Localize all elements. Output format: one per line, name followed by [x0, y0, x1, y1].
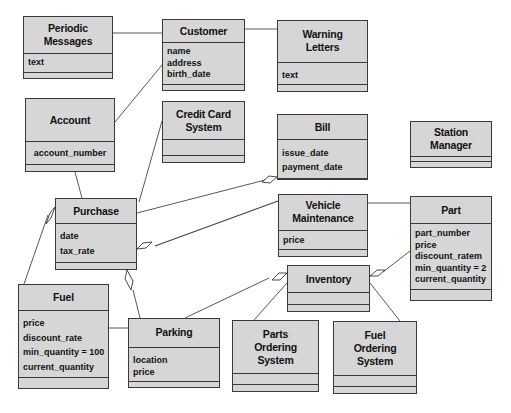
class-name: Purchase	[56, 199, 136, 224]
attribute: issue_date	[282, 146, 363, 160]
class-name: Fuel Ordering System	[334, 322, 416, 376]
class-name: Bill	[278, 115, 367, 140]
attribute: price	[283, 235, 363, 247]
class-attributes	[163, 140, 244, 156]
class-name: Customer	[163, 20, 244, 43]
class-name: Fuel	[19, 285, 108, 311]
class-fuel: Fuel price discount_rate min_quantity = …	[18, 284, 109, 389]
class-operations	[288, 305, 369, 311]
class-operations	[233, 385, 318, 391]
attribute: text	[28, 57, 108, 69]
attribute: min_quantity = 2	[415, 263, 487, 275]
attribute: min_quantity = 100	[23, 345, 104, 360]
class-attributes: location price	[129, 348, 219, 382]
class-attributes: price discount_rate min_quantity = 100 c…	[19, 311, 108, 378]
attribute: price	[23, 316, 104, 331]
class-operations	[19, 378, 108, 388]
class-operations	[26, 165, 114, 171]
attribute: birth_date	[167, 69, 240, 81]
class-credit-card-system: Credit Card System	[162, 101, 245, 163]
attribute: payment_date	[282, 160, 363, 174]
class-account: Account account_number	[25, 98, 115, 172]
class-name: Vehicle Maintenance	[279, 195, 367, 231]
attribute: text	[282, 70, 363, 82]
class-name: Credit Card System	[163, 102, 244, 140]
attribute: tax_rate	[60, 244, 132, 259]
class-operations	[56, 263, 136, 269]
class-parking: Parking location price	[128, 318, 220, 388]
class-name: Warning Letters	[278, 21, 367, 63]
class-attributes: account_number	[26, 142, 114, 165]
class-name: Account	[26, 99, 114, 142]
class-attributes	[288, 293, 369, 305]
attribute: address	[167, 58, 240, 70]
attribute: current_quantity	[23, 360, 104, 375]
class-attributes: issue_date payment_date	[278, 140, 367, 179]
class-operations	[279, 250, 367, 256]
attribute: discount_rate	[23, 331, 104, 346]
class-operations	[411, 290, 491, 300]
class-station-manager: Station Manager	[410, 121, 492, 168]
attribute: date	[60, 229, 132, 244]
class-parts-ordering-system: Parts Ordering System	[232, 320, 319, 392]
class-name: Part	[411, 197, 491, 224]
attribute: name	[167, 46, 240, 58]
attribute: location	[133, 354, 215, 366]
class-purchase: Purchase date tax_rate	[55, 198, 137, 270]
class-fuel-ordering-system: Fuel Ordering System	[333, 321, 417, 394]
class-operations	[334, 387, 416, 393]
attribute: price	[133, 366, 215, 378]
class-attributes	[233, 374, 318, 385]
class-warning-letters: Warning Letters text	[277, 20, 368, 92]
class-part: Part part_number price discount_ratem mi…	[410, 196, 492, 301]
class-attributes: price	[279, 231, 367, 251]
class-operations	[278, 85, 367, 91]
class-attributes: date tax_rate	[56, 224, 136, 263]
class-attributes: text	[278, 63, 367, 86]
class-operations	[411, 162, 491, 167]
class-bill: Bill issue_date payment_date	[277, 114, 368, 180]
attribute: discount_ratem	[415, 251, 487, 263]
class-vehicle-maintenance: Vehicle Maintenance price	[278, 194, 368, 257]
attribute: price	[415, 240, 487, 252]
class-attributes: text	[24, 54, 112, 73]
class-attributes: part_number price discount_ratem min_qua…	[411, 224, 491, 290]
class-operations	[163, 156, 244, 162]
class-operations	[163, 85, 244, 90]
class-inventory: Inventory	[287, 265, 370, 312]
class-name: Inventory	[288, 266, 369, 293]
class-attributes: name address birth_date	[163, 43, 244, 85]
class-operations	[129, 382, 219, 387]
class-name: Parts Ordering System	[233, 321, 318, 374]
class-name: Station Manager	[411, 122, 491, 157]
attribute: account_number	[30, 148, 110, 160]
class-attributes	[334, 376, 416, 387]
class-customer: Customer name address birth_date	[162, 19, 245, 91]
class-name: Parking	[129, 319, 219, 348]
class-operations	[24, 73, 112, 78]
class-name: Periodic Messages	[24, 17, 112, 54]
class-periodic-messages: Periodic Messages text	[23, 16, 113, 79]
attribute: current_quantity	[415, 274, 487, 286]
attribute: part_number	[415, 228, 487, 240]
